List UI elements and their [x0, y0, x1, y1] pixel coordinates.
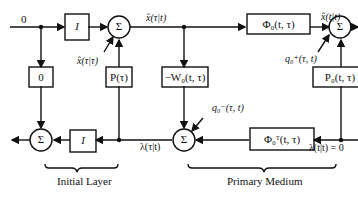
identity-bottom-label: I	[70, 135, 96, 146]
x-hat-tau-tau-label: x̂(τ|τ)	[77, 56, 98, 66]
phi0-transpose-label: Φ₀ᵀ(t, τ)	[250, 134, 314, 145]
lambda-tau-t-label: λ(τ|t)	[140, 142, 160, 152]
zero-gain-label: 0	[29, 72, 53, 83]
x-hat-tau-t-label: x̂(τ|t)	[146, 13, 166, 23]
sum-symbol-top-right: Σ	[333, 21, 347, 32]
primary-medium-label: Primary Medium	[227, 175, 302, 187]
lambda-t-t-label: λ(t|t) = 0	[309, 143, 344, 153]
sum-symbol-top-left: Σ	[112, 21, 126, 32]
p0-label: P₀(t, τ)	[313, 72, 358, 83]
initial-layer-label: Initial Layer	[57, 175, 112, 187]
neg-w0-label: −W₀(t, τ)	[162, 72, 208, 83]
sum-symbol-bottom-mid: Σ	[177, 134, 191, 145]
p-tau-label: P(τ)	[106, 72, 132, 83]
sum-symbol-bottom-left: Σ	[34, 134, 48, 145]
q0-plus-label: q₀⁺(τ, t)	[285, 54, 317, 64]
input-zero-label: 0	[21, 14, 27, 25]
x-hat-t-t-label: x̂(t|t)	[321, 12, 340, 22]
phi0-label: Φ₀(t, τ)	[247, 19, 310, 30]
q0-minus-label: q₀⁻(τ, t)	[212, 103, 244, 113]
identity-top-label: I	[65, 21, 89, 32]
